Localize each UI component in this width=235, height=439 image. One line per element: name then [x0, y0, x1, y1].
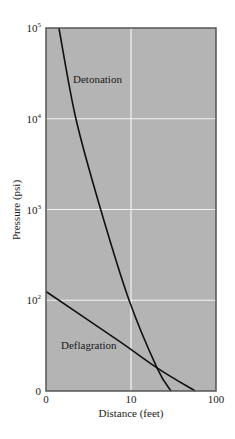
y-tick-label: 102: [27, 293, 42, 306]
y-axis-label: Pressure (psi): [10, 180, 23, 241]
series-label-deflagration: Deflagration: [61, 339, 117, 351]
x-tick-label: 0: [43, 393, 49, 405]
y-tick-label: 104: [27, 112, 42, 125]
y-tick-label: 103: [27, 203, 42, 216]
x-tick-label: 100: [208, 393, 225, 405]
x-axis-label: Distance (feet): [98, 407, 163, 420]
x-axis-ticks: 010100: [43, 393, 225, 405]
x-tick-label: 10: [126, 393, 138, 405]
y-tick-label: 105: [27, 21, 42, 34]
chart: 0102103104105 010100 Detonation Deflagra…: [0, 0, 235, 439]
series-label-detonation: Detonation: [73, 73, 122, 85]
y-axis-ticks: 0102103104105: [27, 21, 42, 397]
y-tick-label: 0: [36, 385, 42, 397]
